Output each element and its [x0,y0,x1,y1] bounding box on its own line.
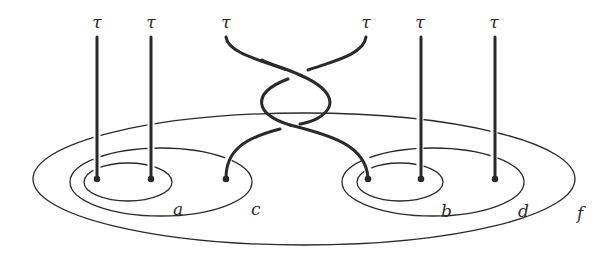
point-3 [223,176,230,183]
tau-label-2: τ [146,14,155,31]
tau-label-1: τ [92,14,101,31]
point-2 [148,176,155,183]
curve-label-b: b [441,203,452,220]
curve-label-a: a [173,201,183,218]
braid-diagram: τ τ τ τ τ τ a c b d f [0,0,615,256]
tau-label-3: τ [221,14,230,31]
tau-label-5: τ [415,14,424,31]
tau-label-4: τ [361,14,370,31]
curve-label-c: c [251,201,261,218]
curve-label-f: f [577,205,583,222]
point-1 [94,176,101,183]
tau-label-6: τ [489,14,498,31]
point-4 [365,176,372,183]
curve-label-d: d [518,203,529,220]
strand-4-lower [290,125,368,178]
strand-3-mid [300,75,330,118]
point-5 [418,176,425,183]
point-6 [492,176,499,183]
strand-4-upper [308,37,366,70]
strand-4-mid [262,79,290,125]
